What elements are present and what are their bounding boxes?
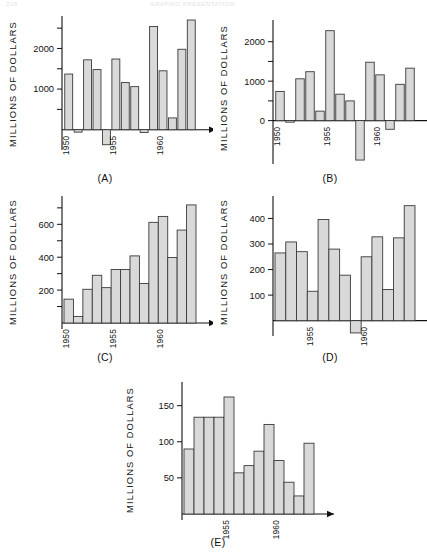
y-axis-title: MILLIONS OF DOLLARS bbox=[8, 199, 18, 325]
bar bbox=[214, 417, 224, 514]
bar bbox=[297, 252, 308, 321]
chart-e: MILLIONS OF DOLLARS5010015019551960 bbox=[107, 372, 427, 542]
chart-c: MILLIONS OF DOLLARS200400600195019551960 bbox=[0, 190, 213, 350]
bar bbox=[366, 62, 375, 120]
bar bbox=[204, 417, 214, 514]
bar bbox=[286, 242, 297, 321]
bar bbox=[177, 230, 186, 323]
bar bbox=[224, 397, 234, 514]
bar bbox=[254, 451, 264, 514]
bar bbox=[383, 289, 394, 320]
y-axis-title: MILLIONS OF DOLLARS bbox=[219, 199, 229, 325]
y-tick-label: 2000 bbox=[33, 44, 54, 54]
bar bbox=[131, 87, 139, 130]
x-tick-label: 1960 bbox=[372, 126, 382, 145]
chart-panel-a: MILLIONS OF DOLLARS10002000195019551960 bbox=[0, 8, 213, 173]
bar bbox=[187, 205, 196, 323]
bar bbox=[84, 60, 92, 130]
bar bbox=[396, 84, 405, 120]
bar bbox=[65, 74, 73, 130]
chart-panel-d: MILLIONS OF DOLLARS10020030040019551960 bbox=[213, 190, 427, 350]
bar bbox=[372, 237, 383, 321]
bar bbox=[307, 291, 318, 320]
bar bbox=[184, 449, 194, 514]
bar bbox=[64, 299, 73, 323]
bar bbox=[276, 91, 285, 120]
chart-a: MILLIONS OF DOLLARS10002000195019551960 bbox=[0, 8, 213, 173]
bar bbox=[274, 461, 284, 514]
x-tick-label: 1950 bbox=[272, 126, 282, 145]
chart-panel-e: MILLIONS OF DOLLARS5010015019551960 bbox=[107, 372, 427, 542]
y-tick-label: 300 bbox=[249, 239, 265, 249]
bar bbox=[329, 249, 340, 321]
y-tick-label: 50 bbox=[164, 473, 174, 483]
y-axis-title: MILLIONS OF DOLLARS bbox=[8, 21, 18, 147]
bar bbox=[316, 111, 325, 120]
x-tick-label: 1960 bbox=[155, 329, 165, 348]
bar bbox=[336, 94, 345, 120]
y-tick-label: 1000 bbox=[244, 77, 265, 87]
x-tick-label: 1960 bbox=[359, 326, 369, 345]
bar bbox=[306, 72, 315, 121]
bar bbox=[284, 482, 294, 514]
y-tick-label: 600 bbox=[38, 220, 54, 230]
bar bbox=[326, 31, 335, 121]
x-axis-arrow-icon bbox=[327, 511, 334, 517]
chart-d: MILLIONS OF DOLLARS10020030040019551960 bbox=[213, 190, 427, 350]
y-tick-label: 400 bbox=[249, 214, 265, 224]
bar bbox=[187, 20, 195, 130]
chart-panel-b: MILLIONS OF DOLLARS010002000195019551960 bbox=[213, 8, 427, 173]
y-axis-title: MILLIONS OF DOLLARS bbox=[125, 387, 135, 513]
x-tick-label: 1955 bbox=[108, 329, 118, 348]
y-tick-label: 2000 bbox=[244, 37, 265, 47]
caption-c: (C) bbox=[60, 351, 150, 363]
bar bbox=[178, 49, 186, 129]
running-head: GRAPHIC PRESENTATION bbox=[150, 1, 235, 7]
bar bbox=[112, 59, 120, 130]
bar bbox=[318, 219, 329, 320]
x-tick-label: 1955 bbox=[322, 126, 332, 145]
bar bbox=[340, 275, 351, 320]
y-tick-label: 200 bbox=[38, 286, 54, 296]
bar bbox=[244, 466, 254, 514]
x-tick-label: 1955 bbox=[108, 136, 118, 155]
bar bbox=[130, 256, 139, 323]
bar bbox=[346, 101, 355, 121]
bar bbox=[404, 206, 415, 321]
bar bbox=[73, 316, 82, 323]
y-axis-title: MILLIONS OF DOLLARS bbox=[219, 25, 229, 151]
bar bbox=[361, 257, 372, 321]
bar bbox=[304, 443, 314, 514]
x-tick-label: 1950 bbox=[61, 329, 71, 348]
bar bbox=[393, 238, 404, 321]
bar bbox=[150, 27, 158, 130]
bar bbox=[121, 270, 130, 323]
page-number: 228 bbox=[6, 1, 18, 7]
bar bbox=[92, 275, 101, 323]
bar bbox=[168, 118, 176, 130]
bar bbox=[93, 70, 101, 130]
chart-b: MILLIONS OF DOLLARS010002000195019551960 bbox=[213, 8, 427, 173]
x-tick-label: 1960 bbox=[271, 520, 281, 539]
caption-b: (B) bbox=[285, 172, 375, 184]
bar bbox=[356, 121, 365, 160]
bar bbox=[194, 417, 204, 514]
bar bbox=[406, 68, 415, 120]
bar bbox=[286, 121, 295, 123]
bar bbox=[140, 130, 148, 133]
caption-e: (E) bbox=[173, 536, 263, 548]
bar bbox=[386, 121, 395, 130]
bar bbox=[168, 258, 177, 323]
bar bbox=[74, 130, 82, 132]
bar bbox=[121, 83, 129, 130]
y-tick-label: 150 bbox=[158, 401, 174, 411]
y-tick-label: 200 bbox=[249, 265, 265, 275]
bar bbox=[264, 424, 274, 514]
bar bbox=[83, 289, 92, 323]
bar bbox=[234, 473, 244, 514]
y-tick-label: 1000 bbox=[33, 84, 54, 94]
bar bbox=[158, 216, 167, 323]
bar bbox=[139, 284, 148, 323]
bar bbox=[294, 496, 304, 514]
bar bbox=[111, 270, 120, 323]
